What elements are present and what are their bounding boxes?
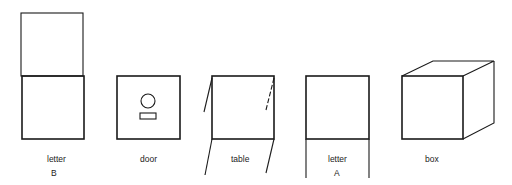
box-label: box xyxy=(425,154,439,164)
table-leg-back-left xyxy=(204,78,212,112)
table-leg-back-right xyxy=(266,78,274,110)
box-side-face xyxy=(463,61,494,139)
box-top-face xyxy=(402,61,494,76)
table-top xyxy=(212,76,274,139)
letter-a-drawing: letter A xyxy=(306,76,369,178)
table-label: table xyxy=(231,154,250,164)
table-drawing: table xyxy=(204,76,274,175)
letter-b-sublabel: B xyxy=(51,168,57,178)
door-mail-slot-icon xyxy=(140,113,156,119)
door-knob-icon xyxy=(141,94,155,108)
figure-canvas: letter B door table letter A box xyxy=(0,0,512,185)
letter-a-body xyxy=(306,76,369,139)
letter-a-sublabel: A xyxy=(334,168,340,178)
letter-b-body xyxy=(22,76,84,139)
door-label: door xyxy=(140,154,157,164)
table-leg-front-left xyxy=(205,139,212,175)
door-drawing: door xyxy=(117,76,180,164)
letter-b-flap xyxy=(21,13,83,76)
box-front-face xyxy=(402,76,463,139)
letter-b-label: letter xyxy=(47,154,66,164)
letter-a-label: letter xyxy=(328,154,347,164)
box-drawing: box xyxy=(402,61,494,164)
table-leg-front-right xyxy=(266,139,274,173)
letter-b-drawing: letter B xyxy=(21,13,84,178)
